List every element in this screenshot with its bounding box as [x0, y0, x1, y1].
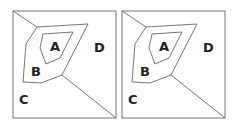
- label-b: B: [140, 64, 150, 79]
- label-d: D: [203, 40, 214, 55]
- label-c: C: [19, 92, 29, 107]
- divider-line-bottom: [62, 75, 116, 118]
- divider-line-top: [13, 11, 37, 27]
- divider-line-bottom: [171, 75, 225, 118]
- label-a: A: [50, 39, 60, 54]
- region-diagram-left: A B C D: [13, 11, 116, 118]
- label-b: B: [31, 64, 41, 79]
- region-diagram-right: A B C D: [122, 11, 225, 118]
- diagram-canvas: A B C D A B C D: [0, 0, 238, 126]
- label-a: A: [159, 39, 169, 54]
- label-c: C: [128, 92, 138, 107]
- divider-line-top: [122, 11, 146, 27]
- label-d: D: [94, 40, 105, 55]
